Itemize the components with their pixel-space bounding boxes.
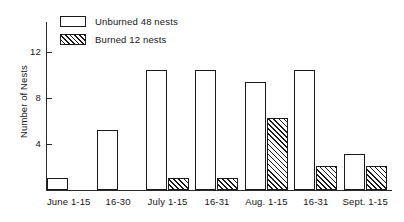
bar-burned-6 <box>366 166 387 190</box>
bar-burned-3 <box>217 178 238 190</box>
x-label-2: July 1-15 <box>148 196 188 207</box>
bar-unburned-0 <box>47 178 68 190</box>
bar-unburned-6 <box>344 154 365 190</box>
bar-burned-2 <box>168 178 189 190</box>
bar-group <box>46 22 95 190</box>
bar-unburned-5 <box>294 70 315 190</box>
x-label-5: 16-31 <box>303 196 328 207</box>
bar-group <box>244 22 293 190</box>
x-label-4: Aug. 1-15 <box>245 196 288 207</box>
x-label-3: 16-31 <box>204 196 229 207</box>
plot-area <box>46 22 392 190</box>
x-label-6: Sept. 1-15 <box>343 196 388 207</box>
y-tick-label-4: 4 <box>19 138 41 149</box>
bar-unburned-1 <box>97 130 118 190</box>
bar-unburned-3 <box>195 70 216 190</box>
bar-group <box>194 22 243 190</box>
x-label-0: June 1-15 <box>47 196 91 207</box>
y-tick-label-12: 12 <box>19 46 41 57</box>
bar-group <box>145 22 194 190</box>
nest-counts-bar-chart: Number of Nests 12 8 4 Unburned 48 nests… <box>0 0 404 222</box>
y-tick-label-8: 8 <box>19 92 41 103</box>
bar-group <box>293 22 342 190</box>
bar-group <box>95 22 144 190</box>
bar-unburned-2 <box>146 70 167 190</box>
bar-burned-5 <box>316 166 337 190</box>
bar-burned-4 <box>267 118 288 190</box>
bar-unburned-4 <box>245 82 266 190</box>
bar-group <box>343 22 392 190</box>
x-label-1: 16-30 <box>106 196 131 207</box>
